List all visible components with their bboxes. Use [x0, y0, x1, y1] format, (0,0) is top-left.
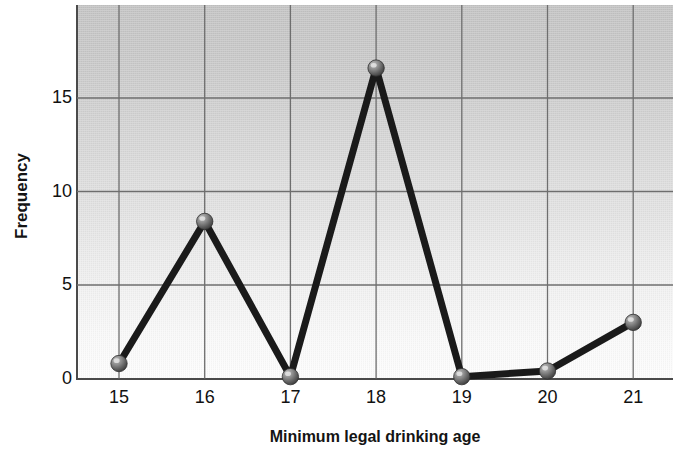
x-tick-label: 21	[603, 388, 663, 406]
x-tick-label: 16	[175, 388, 235, 406]
y-tick-label: 15	[28, 88, 72, 106]
x-axis-title: Minimum legal drinking age	[77, 428, 673, 446]
data-point-marker	[539, 363, 555, 379]
data-point-marker	[368, 60, 384, 76]
y-axis-title: Frequency	[12, 116, 32, 276]
data-point-marker	[197, 213, 213, 229]
x-tick-label: 20	[518, 388, 578, 406]
y-tick-label: 0	[28, 369, 72, 387]
x-tick-label: 18	[346, 388, 406, 406]
frequency-line-chart: 051015 15161718192021 Frequency Minimum …	[0, 0, 673, 457]
horizontal-gridlines	[77, 98, 673, 285]
y-tick-label: 10	[28, 182, 72, 200]
x-tick-label: 15	[89, 388, 149, 406]
x-tick-label: 17	[260, 388, 320, 406]
data-point-marker	[111, 355, 127, 371]
y-tick-label: 5	[28, 275, 72, 293]
data-point-marker	[625, 314, 641, 330]
data-point-marker	[454, 368, 470, 384]
x-tick-label: 19	[432, 388, 492, 406]
data-point-marker	[282, 368, 298, 384]
